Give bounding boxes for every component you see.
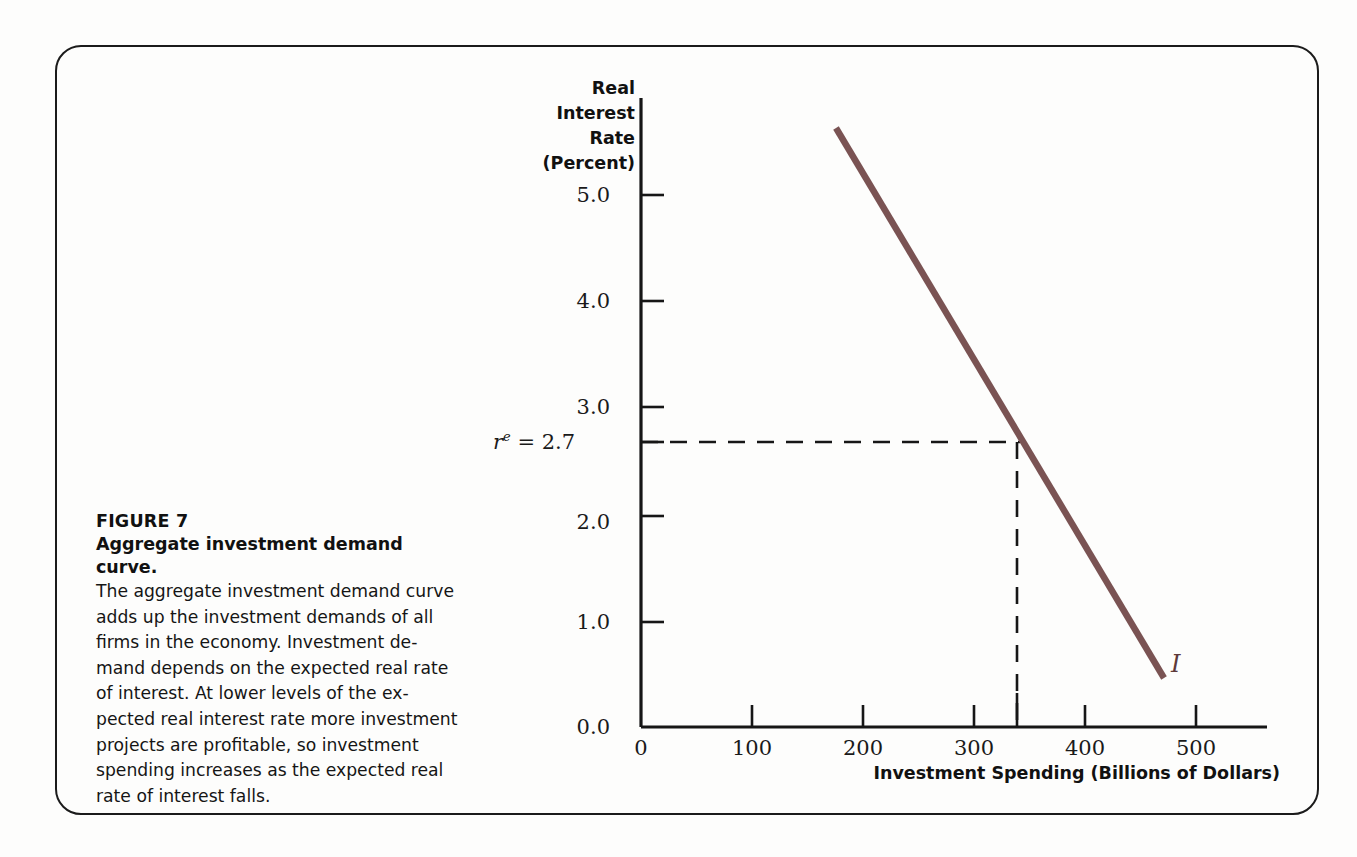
figure-number: FIGURE 7 xyxy=(96,511,416,532)
figure-caption: FIGURE 7 Aggregate investment demand cur… xyxy=(96,511,416,809)
figure-page: FIGURE 7 Aggregate investment demand cur… xyxy=(0,0,1357,857)
caption-line: pected real interest rate more investmen… xyxy=(96,707,416,733)
figure-description: The aggregate investment demand curve ad… xyxy=(96,579,416,809)
caption-line: rate of interest falls. xyxy=(96,784,416,810)
caption-line: mand depends on the expected real rate xyxy=(96,656,416,682)
caption-line: firms in the economy. Investment de- xyxy=(96,630,416,656)
figure-title: Aggregate investment demand curve. xyxy=(96,533,416,579)
caption-line: spending increases as the expected real xyxy=(96,758,416,784)
caption-line: projects are profitable, so investment xyxy=(96,733,416,759)
caption-line: of interest. At lower levels of the ex- xyxy=(96,681,416,707)
caption-line: The aggregate investment demand curve xyxy=(96,579,416,605)
caption-line: adds up the investment demands of all xyxy=(96,605,416,631)
